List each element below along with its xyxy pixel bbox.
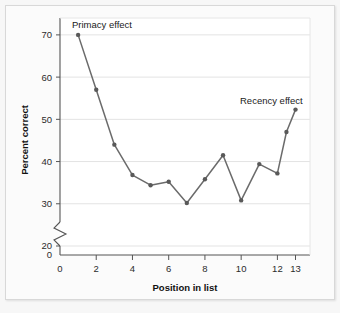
x-tick-label: 6: [166, 263, 171, 274]
x-tick-label: 8: [202, 263, 207, 274]
data-point: [112, 142, 116, 146]
figure-container: 0203040506070 02468101213 Primacy effect…: [0, 0, 340, 313]
serial-position-curve-chart: 0203040506070 02468101213 Primacy effect…: [0, 0, 340, 313]
x-tick-label: 10: [236, 263, 247, 274]
data-point: [284, 130, 288, 134]
y-tick-label-group: 0203040506070: [41, 29, 52, 260]
y-tick-mark-group: [56, 35, 60, 246]
data-point: [275, 171, 279, 175]
data-point: [203, 177, 207, 181]
data-point: [148, 183, 152, 187]
data-point: [293, 107, 297, 111]
data-point: [239, 198, 243, 202]
x-tick-label: 13: [290, 263, 301, 274]
data-point: [185, 201, 189, 205]
plot-area-background: [60, 18, 310, 255]
y-tick-label: 70: [41, 29, 52, 40]
data-point: [221, 153, 225, 157]
x-tick-label: 2: [94, 263, 99, 274]
x-tick-mark-group: [96, 255, 295, 260]
x-tick-label: 4: [130, 263, 135, 274]
recency-effect-annotation: Recency effect: [240, 95, 303, 106]
x-axis-title: Position in list: [153, 282, 219, 293]
y-tick-label: 20: [41, 240, 52, 251]
data-point: [76, 33, 80, 37]
data-point: [94, 88, 98, 92]
y-tick-label: 30: [41, 198, 52, 209]
primacy-effect-annotation: Primacy effect: [72, 19, 132, 30]
y-tick-label: 50: [41, 114, 52, 125]
x-tick-label-group: 02468101213: [57, 263, 300, 274]
x-tick-label: 12: [272, 263, 283, 274]
y-tick-label: 60: [41, 72, 52, 83]
y-axis-title: Percent correct: [19, 104, 30, 175]
data-point: [130, 173, 134, 177]
x-tick-label: 0: [57, 263, 62, 274]
data-point: [167, 180, 171, 184]
data-point: [257, 162, 261, 166]
y-tick-label: 40: [41, 156, 52, 167]
